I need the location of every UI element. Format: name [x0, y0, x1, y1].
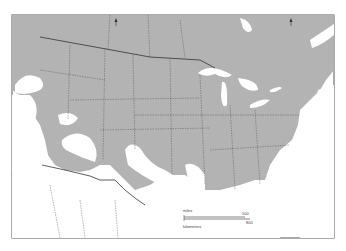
scale-km-label: kilometers — [183, 224, 201, 229]
range-map — [0, 0, 346, 251]
scale-miles-end: 500 — [242, 211, 249, 216]
scale-miles-label: miles — [183, 208, 192, 213]
scale-km-end: 800 — [246, 220, 253, 225]
